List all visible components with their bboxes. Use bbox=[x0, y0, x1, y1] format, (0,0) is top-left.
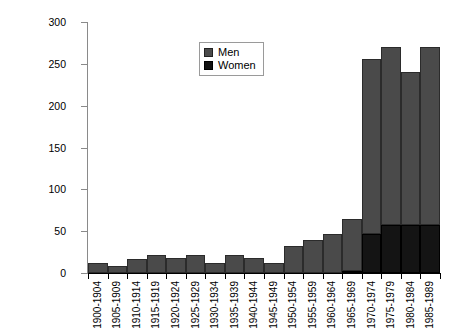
x-tick-label: 1955-1959 bbox=[307, 281, 318, 329]
x-tick bbox=[127, 274, 128, 279]
bar-segment-men bbox=[127, 259, 147, 273]
bar-segment-women bbox=[381, 225, 401, 273]
legend-swatch-men-icon bbox=[204, 48, 213, 57]
x-tick bbox=[166, 274, 167, 279]
x-tick-label: 1950-1954 bbox=[287, 281, 298, 329]
bar-segment-men bbox=[323, 234, 343, 273]
bar-group bbox=[88, 22, 108, 273]
y-tick-300 bbox=[81, 22, 88, 23]
y-tick-label-50: 50 bbox=[26, 226, 66, 237]
bar-segment-men bbox=[381, 47, 401, 225]
legend-label-women: Women bbox=[218, 60, 256, 71]
y-tick-50 bbox=[81, 231, 88, 232]
y-tick-200 bbox=[81, 106, 88, 107]
bar-segment-women bbox=[362, 234, 382, 273]
x-tick bbox=[225, 274, 226, 279]
bar-group bbox=[147, 22, 167, 273]
x-tick-label: 1935-1939 bbox=[229, 281, 240, 329]
y-tick-250 bbox=[81, 64, 88, 65]
x-tick bbox=[342, 274, 343, 279]
x-tick bbox=[420, 274, 421, 279]
bar-segment-women bbox=[420, 225, 440, 273]
x-tick-label: 1920-1924 bbox=[170, 281, 181, 329]
bar-group bbox=[401, 22, 421, 273]
y-tick-0 bbox=[81, 273, 88, 274]
x-tick bbox=[147, 274, 148, 279]
x-tick bbox=[401, 274, 402, 279]
bar-segment-men bbox=[205, 263, 225, 273]
bar-segment-men bbox=[108, 266, 128, 273]
plot-area bbox=[88, 22, 440, 273]
x-tick bbox=[323, 274, 324, 279]
x-tick bbox=[381, 274, 382, 279]
bar-group bbox=[303, 22, 323, 273]
x-tick-label: 1980-1984 bbox=[405, 281, 416, 329]
bar-segment-men bbox=[284, 246, 304, 273]
bar-segment-men bbox=[166, 258, 186, 273]
bar-segment-men bbox=[88, 263, 108, 273]
bar-group bbox=[127, 22, 147, 273]
y-tick-label-150: 150 bbox=[26, 143, 66, 154]
x-tick bbox=[303, 274, 304, 279]
y-tick-150 bbox=[81, 148, 88, 149]
x-tick-label: 1925-1929 bbox=[190, 281, 201, 329]
x-tick-label: 1985-1989 bbox=[424, 281, 435, 329]
x-tick-label: 1910-1914 bbox=[131, 281, 142, 329]
bar-segment-men bbox=[244, 258, 264, 273]
bar-group bbox=[342, 22, 362, 273]
x-tick bbox=[362, 274, 363, 279]
x-tick bbox=[186, 274, 187, 279]
x-tick-label: 1970-1974 bbox=[366, 281, 377, 329]
bar-segment-women bbox=[401, 225, 421, 273]
x-tick bbox=[205, 274, 206, 279]
x-tick-label: 1975-1979 bbox=[385, 281, 396, 329]
bar-segment-men bbox=[342, 219, 362, 272]
x-tick-label: 1905-1909 bbox=[111, 281, 122, 329]
x-tick-label: 1900-1904 bbox=[92, 281, 103, 329]
bar-segment-men bbox=[147, 255, 167, 273]
legend-swatch-women-icon bbox=[204, 61, 213, 70]
legend-item-women: Women bbox=[204, 59, 256, 72]
bar-segment-men bbox=[225, 255, 245, 273]
x-tick-label: 1930-1934 bbox=[209, 281, 220, 329]
bar-segment-men bbox=[186, 255, 206, 273]
x-tick-label: 1965-1969 bbox=[346, 281, 357, 329]
x-tick bbox=[284, 274, 285, 279]
y-tick-label-200: 200 bbox=[26, 101, 66, 112]
x-tick bbox=[108, 274, 109, 279]
bar-group bbox=[381, 22, 401, 273]
y-tick-label-100: 100 bbox=[26, 184, 66, 195]
bar-group bbox=[108, 22, 128, 273]
bar-chart: 050100150200250300 1900-19041905-1909191… bbox=[0, 0, 450, 330]
y-tick-label-250: 250 bbox=[26, 59, 66, 70]
x-tick-label: 1915-1919 bbox=[150, 281, 161, 329]
bar-group bbox=[166, 22, 186, 273]
legend-item-men: Men bbox=[204, 46, 256, 59]
bar-segment-men bbox=[303, 240, 323, 273]
y-tick-label-300: 300 bbox=[26, 17, 66, 28]
bar-segment-men bbox=[362, 59, 382, 234]
x-tick-label: 1940-1944 bbox=[248, 281, 259, 329]
x-tick-label: 1960-1964 bbox=[326, 281, 337, 329]
chart-legend: Men Women bbox=[199, 42, 264, 76]
bar-group bbox=[323, 22, 343, 273]
x-tick bbox=[244, 274, 245, 279]
bar-group bbox=[362, 22, 382, 273]
bar-group bbox=[420, 22, 440, 273]
x-tick-label: 1945-1949 bbox=[268, 281, 279, 329]
legend-label-men: Men bbox=[218, 47, 239, 58]
bar-segment-men bbox=[264, 263, 284, 273]
x-tick bbox=[88, 274, 89, 279]
bar-segment-men bbox=[420, 47, 440, 225]
bar-group bbox=[284, 22, 304, 273]
x-tick bbox=[440, 274, 441, 279]
bar-group bbox=[264, 22, 284, 273]
bar-segment-men bbox=[401, 72, 421, 225]
y-tick-100 bbox=[81, 189, 88, 190]
x-tick bbox=[264, 274, 265, 279]
y-tick-label-0: 0 bbox=[26, 268, 66, 279]
